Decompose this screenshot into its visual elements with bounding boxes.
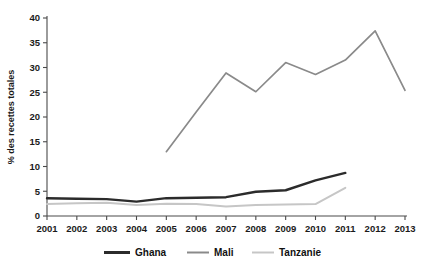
y-tick-label: 30 — [29, 62, 40, 73]
x-tick-label: 2012 — [365, 223, 386, 234]
y-tick-label: 10 — [29, 161, 40, 172]
y-tick-label: 5 — [35, 186, 41, 197]
legend-label-mali: Mali — [214, 247, 234, 258]
x-tick-label: 2006 — [186, 223, 207, 234]
legend-label-tanzanie: Tanzanie — [279, 247, 321, 258]
x-tick-label: 2002 — [66, 223, 87, 234]
x-tick-label: 2011 — [335, 223, 356, 234]
series-line-ghana — [47, 173, 345, 202]
x-tick-label: 2001 — [36, 223, 58, 234]
y-tick-label: 20 — [29, 111, 40, 122]
y-tick-label: 40 — [29, 12, 40, 23]
y-axis-title: % des recettes totales — [6, 70, 16, 165]
legend-label-ghana: Ghana — [135, 247, 167, 258]
y-tick-label: 15 — [29, 136, 40, 147]
x-tick-label: 2008 — [245, 223, 266, 234]
x-tick-label: 2004 — [126, 223, 148, 234]
x-tick-label: 2010 — [305, 223, 326, 234]
x-tick-label: 2005 — [156, 223, 178, 234]
x-tick-label: 2013 — [394, 223, 415, 234]
y-tick-label: 35 — [29, 37, 40, 48]
x-tick-label: 2009 — [275, 223, 296, 234]
x-tick-label: 2003 — [96, 223, 117, 234]
line-chart: 0510152025303540% des recettes totales20… — [0, 0, 423, 273]
x-tick-label: 2007 — [215, 223, 236, 234]
y-tick-label: 25 — [29, 87, 40, 98]
chart-container: 0510152025303540% des recettes totales20… — [0, 0, 423, 273]
y-tick-label: 0 — [35, 210, 40, 221]
series-line-mali — [166, 31, 405, 152]
